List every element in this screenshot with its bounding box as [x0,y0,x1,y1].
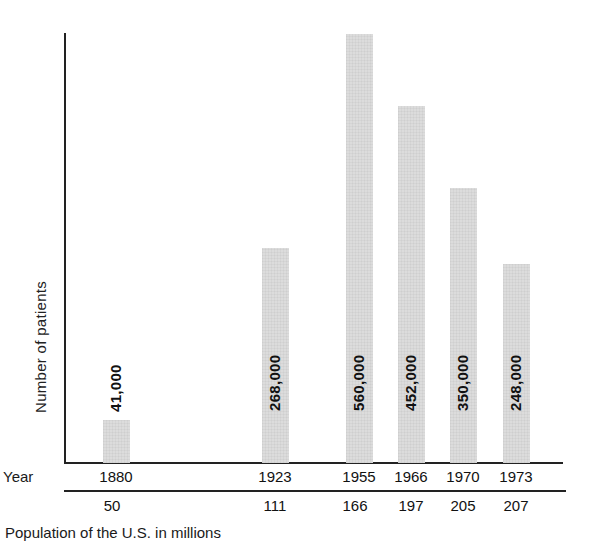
year-tick: 1923 [250,468,300,485]
population-value: 111 [250,497,300,514]
y-axis-line [64,33,66,464]
year-tick: 1880 [91,468,141,485]
year-tick: 1955 [334,468,384,485]
year-tick: 1966 [386,468,436,485]
population-value: 50 [87,497,137,514]
bar-value-label: 268,000 [266,355,283,411]
population-divider-line [64,490,566,492]
year-tick: 1970 [438,468,488,485]
population-value: 205 [438,497,488,514]
population-value: 197 [386,497,436,514]
bar-1880 [103,420,130,463]
y-axis-label: Number of patients [32,281,49,413]
population-value: 166 [330,497,380,514]
bar-value-label: 350,000 [454,355,471,411]
population-axis-title: Population of the U.S. in millions [5,524,221,541]
bar-value-label: 41,000 [107,364,124,412]
bar-value-label: 560,000 [350,355,367,411]
bar-value-label: 248,000 [507,355,524,411]
year-tick: 1973 [491,468,541,485]
population-value: 207 [491,497,541,514]
x-axis-line [64,462,563,464]
bar-1970 [450,188,477,463]
year-row-label: Year [3,468,33,485]
bar-value-label: 452,000 [402,355,419,411]
